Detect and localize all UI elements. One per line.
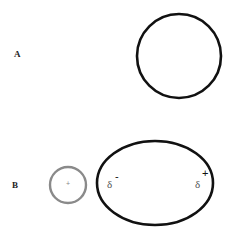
delta-right-sign: + <box>202 167 208 179</box>
label-a: A <box>14 49 21 59</box>
delta-right: δ <box>195 178 200 190</box>
delta-left-sign: - <box>115 170 119 182</box>
label-b: B <box>12 180 18 190</box>
diagram-canvas <box>0 0 231 231</box>
circle-a <box>137 14 221 98</box>
small-circle-charge: + <box>66 180 70 187</box>
delta-left: δ <box>107 178 112 190</box>
